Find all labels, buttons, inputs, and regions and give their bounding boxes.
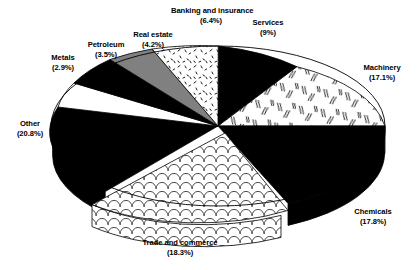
- slice-label-name: Banking and insurance: [171, 6, 251, 16]
- slice-label-name: Chemicals: [340, 207, 406, 217]
- slice-label-percent: (2.9%): [33, 63, 93, 73]
- slice-label-machinery: Machinery (17.1%): [348, 63, 416, 82]
- pie-chart-canvas: [0, 0, 420, 270]
- slice-label-name: Real estate: [118, 30, 188, 40]
- slice-label-name: Trade and commerce: [118, 238, 242, 248]
- slice-label-chemicals: Chemicals (17.8%): [340, 207, 406, 226]
- slice-label-name: Machinery: [348, 63, 416, 73]
- slice-label-metals: Metals (2.9%): [33, 53, 93, 72]
- slice-label-name: Petroleum: [72, 40, 140, 50]
- slice-label-percent: (9%): [238, 28, 298, 38]
- slice-label-name: Services: [238, 18, 298, 28]
- slice-label-services: Services (9%): [238, 18, 298, 37]
- slice-label-percent: (17.1%): [348, 73, 416, 83]
- slice-label-name: Other: [3, 119, 57, 129]
- slice-label-percent: (18.3%): [118, 248, 242, 258]
- slice-label-percent: (17.8%): [340, 217, 406, 227]
- slice-label-trade-and-commerce: Trade and commerce (18.3%): [118, 238, 242, 257]
- slice-label-percent: (20.8%): [3, 129, 57, 139]
- slice-label-other: Other (20.8%): [3, 119, 57, 138]
- pie-chart: Banking and insurance (6.4%) Real estate…: [0, 0, 420, 270]
- slice-label-name: Metals: [33, 53, 93, 63]
